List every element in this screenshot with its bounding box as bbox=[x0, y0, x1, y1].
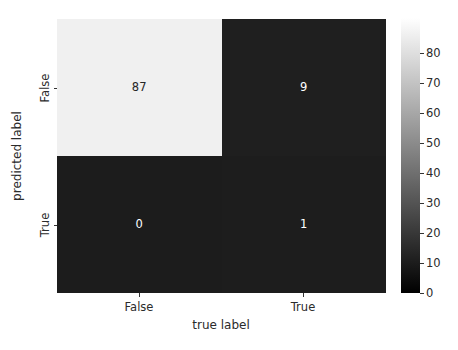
colorbar-tick-label: 80 bbox=[426, 46, 441, 60]
y-axis-label: predicted label bbox=[10, 111, 24, 201]
colorbar: 01020304050607080 bbox=[401, 18, 420, 293]
colorbar-tick-label: 60 bbox=[426, 106, 441, 120]
colorbar-tick-label: 30 bbox=[426, 196, 441, 210]
heatmap-cell: 87 bbox=[57, 19, 222, 156]
y-tick-label-false: False bbox=[38, 74, 52, 103]
heatmap-cell: 1 bbox=[222, 156, 387, 293]
heatmap-cell: 9 bbox=[222, 19, 387, 156]
colorbar-tick-mark bbox=[420, 293, 424, 294]
colorbar-tick-label: 70 bbox=[426, 76, 441, 90]
colorbar-tick-label: 20 bbox=[426, 226, 441, 240]
cell-value: 87 bbox=[132, 82, 147, 94]
confusion-matrix-figure: 87 9 0 1 False True False True true labe… bbox=[0, 0, 458, 350]
x-tick-label-true: True bbox=[291, 300, 315, 314]
cell-value: 9 bbox=[300, 82, 308, 94]
colorbar-tick-mark bbox=[420, 143, 424, 144]
colorbar-gradient bbox=[401, 18, 420, 293]
y-tick-mark bbox=[54, 88, 58, 89]
colorbar-tick-mark bbox=[420, 173, 424, 174]
colorbar-tick-label: 0 bbox=[426, 286, 433, 300]
colorbar-tick-mark bbox=[420, 83, 424, 84]
colorbar-tick-mark bbox=[420, 263, 424, 264]
cell-value: 1 bbox=[300, 219, 308, 231]
x-tick-mark bbox=[139, 293, 140, 297]
colorbar-tick-mark bbox=[420, 233, 424, 234]
x-axis-label: true label bbox=[192, 318, 249, 332]
x-tick-mark bbox=[303, 293, 304, 297]
x-tick-label-false: False bbox=[125, 300, 154, 314]
colorbar-tick-mark bbox=[420, 203, 424, 204]
colorbar-tick-label: 10 bbox=[426, 256, 441, 270]
y-tick-mark bbox=[54, 225, 58, 226]
colorbar-tick-label: 50 bbox=[426, 136, 441, 150]
colorbar-tick-mark bbox=[420, 113, 424, 114]
colorbar-tick-mark bbox=[420, 53, 424, 54]
y-tick-label-true: True bbox=[38, 213, 52, 237]
colorbar-tick-label: 40 bbox=[426, 166, 441, 180]
cell-value: 0 bbox=[135, 219, 143, 231]
heatmap-cell: 0 bbox=[57, 156, 222, 293]
heatmap-axes: 87 9 0 1 bbox=[57, 19, 386, 293]
